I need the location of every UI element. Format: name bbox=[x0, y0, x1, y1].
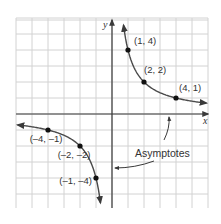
data-point bbox=[77, 143, 82, 148]
point-labels: (1, 4)(2, 2)(4, 1)(–4, –1)(–2, –2)(–1, –… bbox=[30, 35, 202, 186]
hyperbola-chart: xy (1, 4)(2, 2)(4, 1)(–4, –1)(–2, –2)(–1… bbox=[0, 0, 221, 224]
point-label: (4, 1) bbox=[179, 82, 201, 93]
data-point bbox=[173, 95, 178, 100]
y-axis-label: y bbox=[102, 19, 108, 30]
point-label: (–1, –4) bbox=[59, 175, 92, 186]
point-label: (–4, –1) bbox=[30, 133, 63, 144]
data-point bbox=[45, 127, 50, 132]
point-label: (2, 2) bbox=[144, 64, 166, 75]
point-label: (1, 4) bbox=[134, 35, 156, 46]
asymptotes-label: Asymptotes bbox=[135, 147, 190, 159]
asymptote-annotation: Asymptotes bbox=[115, 117, 190, 168]
data-point bbox=[141, 79, 146, 84]
data-point bbox=[125, 47, 130, 52]
asymptote-arrow-to-x-axis bbox=[164, 117, 169, 140]
x-axis-label: x bbox=[202, 115, 208, 126]
data-point bbox=[93, 175, 98, 180]
point-label: (–2, –2) bbox=[58, 149, 91, 160]
axes: xy bbox=[16, 19, 208, 208]
